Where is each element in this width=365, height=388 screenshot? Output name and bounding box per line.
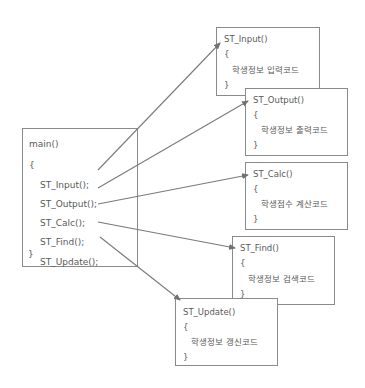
st-update-body: 학생정보 갱신코드 (191, 336, 258, 348)
st-calc-body: 학생점수 계산코드 (261, 198, 328, 210)
st-input-close-brace: } (224, 79, 229, 91)
st-find-body: 학생정보 검색코드 (248, 273, 315, 285)
st-update-close-brace: } (183, 351, 188, 363)
st-find-function-box: ST_Find() { 학생정보 검색코드 } (232, 236, 335, 305)
st-update-open-brace: { (183, 321, 188, 333)
st-calc-function-box: ST_Calc() { 학생점수 계산코드 } (245, 162, 348, 230)
st-calc-title: ST_Calc() (253, 168, 293, 180)
st-output-title: ST_Output() (253, 94, 304, 106)
st-find-title: ST_Find() (240, 242, 279, 254)
main-call-st-find: ST_Find(); (40, 236, 84, 248)
st-output-open-brace: { (253, 109, 258, 121)
st-update-function-box: ST_Update() { 학생정보 갱신코드 } (175, 298, 278, 366)
main-call-st-output: ST_Output(); (40, 198, 97, 210)
main-function-box: main() { ST_Input(); ST_Output(); ST_Cal… (22, 128, 138, 267)
st-output-function-box: ST_Output() { 학생정보 출력코드 } (245, 88, 348, 156)
main-call-st-input: ST_Input(); (40, 179, 89, 191)
st-find-open-brace: { (240, 257, 245, 269)
st-input-title: ST_Input() (224, 33, 267, 45)
main-close-brace-visible: } (28, 248, 34, 260)
st-output-close-brace: } (253, 139, 258, 151)
st-input-body: 학생정보 입력코드 (232, 64, 299, 76)
st-input-function-box: ST_Input() { 학생정보 입력코드 } (216, 27, 320, 96)
st-output-body: 학생정보 출력코드 (261, 124, 328, 136)
st-update-title: ST_Update() (183, 306, 235, 318)
st-calc-open-brace: { (253, 183, 258, 195)
main-call-st-calc: ST_Calc(); (40, 217, 85, 229)
st-input-open-brace: { (224, 48, 229, 60)
main-open-brace: { (29, 159, 35, 171)
st-calc-close-brace: } (253, 213, 258, 225)
main-call-st-update: ST_Update(); (40, 256, 98, 268)
main-title: main() (29, 138, 59, 150)
